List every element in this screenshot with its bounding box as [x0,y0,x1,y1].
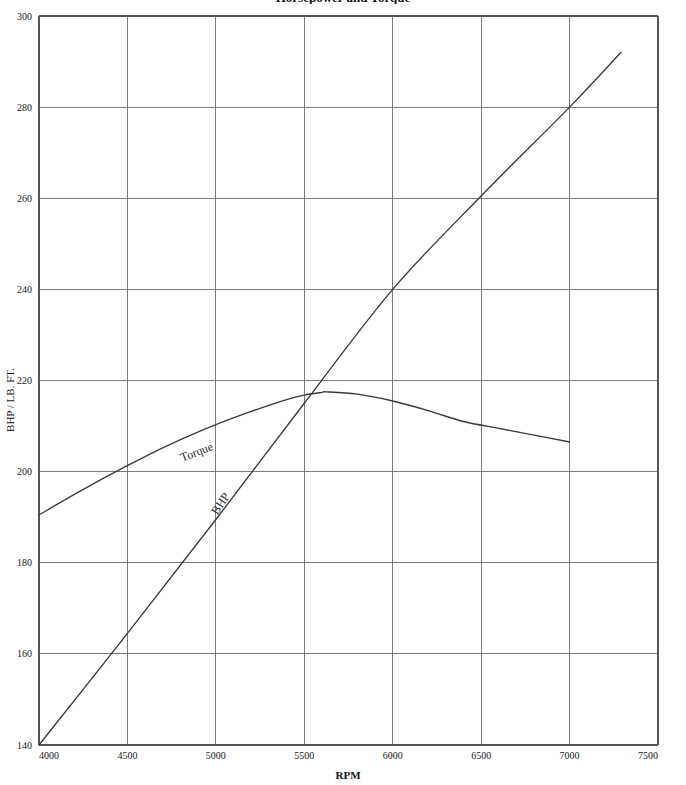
chart-plot-svg: 140160180200220240260280300 400045005000… [0,0,686,785]
y-tick-label: 200 [17,466,32,477]
x-tick-label: 4500 [117,750,137,761]
x-tick-labels: 40004500500055006000650070007500 [39,750,658,761]
x-tick-label: 7500 [638,750,658,761]
data-series [39,52,621,745]
series-labels: TorqueBHP [178,439,233,517]
x-tick-label: 5500 [294,750,314,761]
y-tick-labels: 140160180200220240260280300 [17,11,32,751]
y-tick-label: 260 [17,193,32,204]
y-tick-label: 220 [17,375,32,386]
y-axis-title: BHP / LB. FT. [4,368,16,432]
y-gridlines [39,107,658,654]
x-tick-label: 7000 [560,750,580,761]
x-tick-label: 4000 [39,750,59,761]
y-tick-label: 240 [17,284,32,295]
series-curve-bhp [39,52,621,745]
x-tick-label: 6000 [383,750,403,761]
y-tick-label: 140 [17,740,32,751]
chart-container: Horsepower and Torque 140160180200220240… [0,0,686,785]
y-tick-label: 280 [17,102,32,113]
y-tick-label: 160 [17,648,32,659]
series-label-bhp: BHP [208,490,233,517]
x-tick-label: 5000 [206,750,226,761]
y-tick-label: 300 [17,11,32,22]
x-tick-label: 6500 [471,750,491,761]
series-label-torque: Torque [178,439,215,464]
x-axis-title: RPM [335,769,361,781]
y-tick-label: 180 [17,557,32,568]
